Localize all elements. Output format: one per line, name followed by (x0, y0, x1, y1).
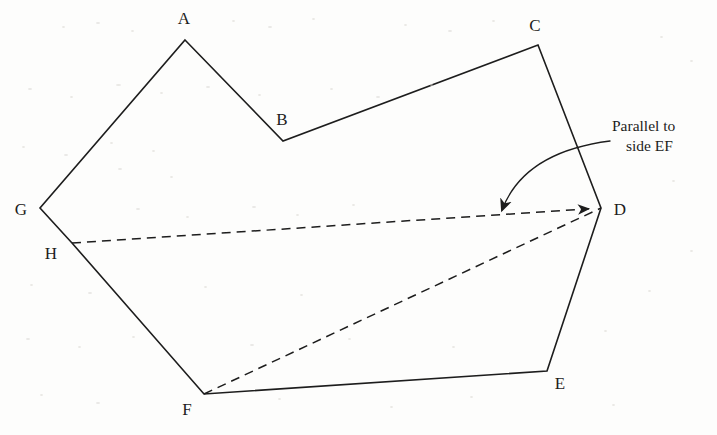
texture-speck (88, 292, 92, 294)
texture-speck (312, 18, 315, 20)
texture-speck (278, 398, 281, 400)
texture-speck (348, 338, 351, 340)
dashed-segment-fd (204, 208, 601, 394)
texture-speck (152, 150, 155, 152)
texture-speck (300, 294, 303, 296)
vertex-label-c: C (529, 17, 541, 34)
texture-speck (96, 402, 100, 404)
texture-speck (390, 406, 393, 408)
vertex-label-d: D (614, 201, 626, 218)
texture-speck (492, 20, 495, 22)
texture-speck (448, 30, 452, 32)
texture-speck (40, 394, 43, 396)
texture-speck (64, 154, 68, 156)
texture-speck (96, 22, 100, 24)
texture-speck (26, 338, 30, 340)
texture-speck (268, 26, 272, 28)
texture-speck (116, 84, 121, 86)
texture-speck (250, 344, 254, 346)
vertex-label-b: B (276, 111, 288, 128)
texture-speck (672, 180, 675, 182)
texture-speck (690, 250, 693, 252)
texture-speck (78, 346, 81, 348)
octagon-outline (40, 40, 601, 394)
texture-speck (296, 214, 299, 216)
texture-speck (28, 88, 32, 90)
texture-speck (186, 216, 189, 218)
texture-speck (660, 36, 663, 38)
dashed-segment-hd (72, 209, 589, 243)
figure-canvas (0, 0, 717, 435)
texture-speck (206, 86, 210, 88)
texture-speck (131, 30, 134, 32)
texture-speck (110, 142, 113, 144)
texture-speck (70, 96, 73, 98)
texture-speck (160, 92, 163, 94)
texture-speck (430, 84, 433, 86)
texture-speck (690, 60, 693, 62)
vertex-label-g: G (15, 201, 27, 218)
parallel-to-side-ef-note: Parallel to side EF (612, 116, 675, 156)
vertex-label-a: A (178, 10, 190, 27)
texture-speck (470, 396, 473, 398)
texture-speck (352, 204, 355, 206)
vertex-label-h: H (45, 245, 57, 262)
texture-speck (604, 330, 607, 332)
texture-speck (376, 96, 380, 98)
texture-speck (62, 26, 65, 28)
texture-speck (30, 284, 33, 286)
texture-speck (204, 286, 207, 288)
texture-speck (22, 146, 25, 148)
annotation-line-1: Parallel to (612, 116, 675, 136)
texture-speck (612, 404, 615, 406)
texture-speck (258, 94, 261, 96)
texture-speck (452, 346, 455, 348)
texture-speck (132, 336, 135, 338)
texture-speck (118, 168, 122, 170)
texture-speck (136, 208, 140, 210)
texture-speck (170, 176, 173, 178)
annotation-line-2: side EF (612, 136, 675, 156)
geometry-figure: ABCDEFGH Parallel to side EF (0, 0, 717, 435)
annotation-curved-arrow (502, 141, 610, 210)
texture-speck (330, 88, 333, 90)
texture-speck (252, 206, 256, 208)
vertex-label-f: F (182, 401, 192, 418)
texture-speck (648, 290, 651, 292)
texture-speck (404, 24, 407, 26)
texture-speck (232, 20, 235, 22)
vertex-label-e: E (555, 375, 566, 392)
